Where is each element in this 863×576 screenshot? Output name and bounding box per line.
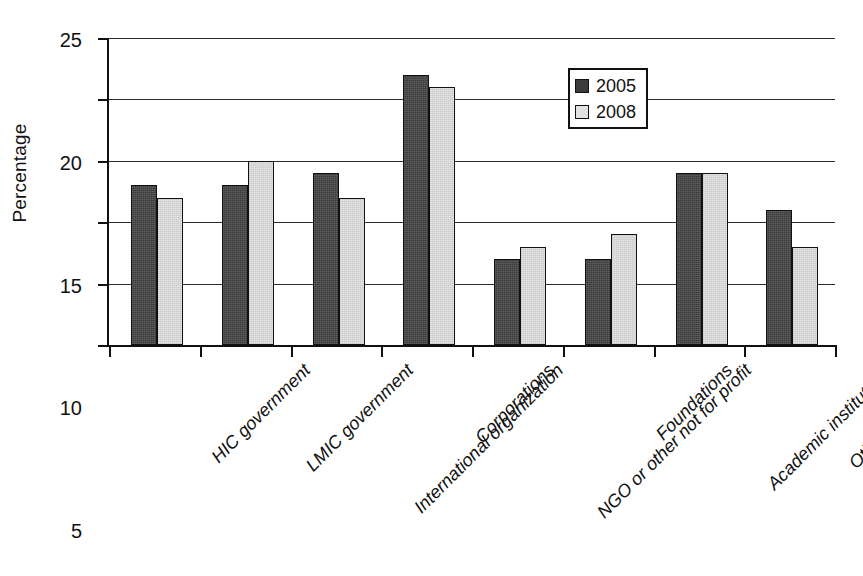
- y-axis-tick: 15: [98, 161, 109, 163]
- x-axis-tick: [200, 345, 202, 357]
- y-axis-tick: 10: [98, 222, 109, 224]
- bar-2005-hic-government: [131, 185, 157, 345]
- x-axis-tick-label: NGO or other not for profit: [593, 360, 756, 523]
- bar-group: [472, 38, 563, 345]
- bar-2005-corporations: [403, 75, 429, 345]
- bar-2005-ngo-or-other-not-for-profit: [494, 259, 520, 345]
- y-axis-tick: 5: [98, 284, 109, 286]
- x-axis-tick: [291, 345, 293, 357]
- bar-2008-foundations: [611, 234, 637, 345]
- legend-item-2005: 2005: [575, 73, 641, 99]
- legend-swatch-2005: [575, 79, 589, 93]
- legend: 2005 2008: [568, 68, 648, 129]
- bar-2008-international-organization: [339, 198, 365, 345]
- bar-2008-other-ghp-staff: [792, 247, 818, 345]
- x-axis-tick: [744, 345, 746, 357]
- y-axis-title: Percentage: [0, 0, 40, 345]
- x-axis-tick-label: Academic institutions: [763, 360, 863, 494]
- y-axis-tick-label: 20: [60, 153, 82, 173]
- bar-2005-other-ghp-staff: [766, 210, 792, 345]
- bar-2005-international-organization: [313, 173, 339, 345]
- bar-group: [744, 38, 835, 345]
- bar-2008-academic-institutions: [702, 173, 728, 345]
- x-axis-tick: [654, 345, 656, 357]
- bar-2005-lmic-government: [222, 185, 248, 345]
- legend-label-2005: 2005: [596, 77, 636, 95]
- bar-2008-corporations: [429, 87, 455, 345]
- x-axis-tick-label: LMIC government: [302, 360, 418, 476]
- x-axis-tick: [563, 345, 565, 357]
- bar-group: [381, 38, 472, 345]
- x-axis-tick: [472, 345, 474, 357]
- y-axis-tick-label: 25: [60, 30, 82, 50]
- x-axis-tick: [109, 345, 111, 357]
- bar-2008-hic-government: [157, 198, 183, 345]
- plot-area: 0510152025: [107, 38, 835, 347]
- bar-group: [291, 38, 382, 345]
- legend-swatch-2008: [575, 105, 589, 119]
- y-axis-tick: 25: [98, 38, 109, 40]
- bar-2008-ngo-or-other-not-for-profit: [520, 247, 546, 345]
- y-axis-title-text: Percentage: [9, 123, 31, 222]
- bar-group: [200, 38, 291, 345]
- y-axis-tick: 20: [98, 99, 109, 101]
- bar-group: [109, 38, 200, 345]
- bar-2008-lmic-government: [248, 161, 274, 345]
- x-axis-tick: [835, 345, 837, 357]
- y-axis-tick-label: 15: [60, 276, 82, 296]
- bar-2005-foundations: [585, 259, 611, 345]
- bar-chart-figure: Percentage 0510152025 2005 2008 HIC gove…: [0, 0, 863, 576]
- x-axis-tick-label: HIC government: [207, 360, 315, 468]
- bar-group: [654, 38, 745, 345]
- y-axis-tick-label: 5: [71, 521, 82, 541]
- legend-item-2008: 2008: [575, 99, 641, 125]
- x-axis-tick: [381, 345, 383, 357]
- legend-label-2008: 2008: [596, 103, 636, 121]
- y-axis-tick-label: 10: [60, 398, 82, 418]
- x-axis-tick-label: Corporations: [471, 360, 559, 448]
- bar-2005-academic-institutions: [676, 173, 702, 345]
- y-axis-tick: 0: [98, 345, 109, 347]
